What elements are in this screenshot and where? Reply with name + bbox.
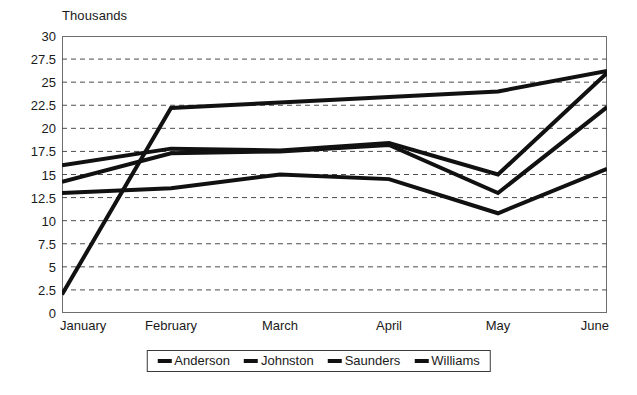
- chart-legend: AndersonJohnstonSaundersWilliams: [146, 350, 490, 372]
- legend-swatch-icon: [244, 359, 258, 363]
- x-axis-tick-label: June: [581, 318, 609, 333]
- legend-label: Anderson: [174, 354, 230, 367]
- y-axis-tick-label: 22.5: [31, 98, 56, 113]
- y-axis-unit-label: Thousands: [62, 8, 127, 23]
- y-axis-tick-label: 0: [49, 306, 56, 321]
- plot-svg: [62, 36, 607, 313]
- y-axis-tick-labels: 3027.52522.52017.51512.5107.552.50: [0, 36, 56, 313]
- x-axis-tick-label: January: [60, 318, 106, 333]
- y-axis-tick-label: 27.5: [31, 52, 56, 67]
- y-axis-tick-label: 17.5: [31, 144, 56, 159]
- x-axis-tick-label: April: [376, 318, 402, 333]
- y-axis-tick-label: 7.5: [38, 236, 56, 251]
- legend-swatch-icon: [328, 359, 342, 363]
- series-line: [62, 169, 607, 213]
- line-chart: Thousands 3027.52522.52017.51512.5107.55…: [0, 0, 637, 395]
- y-axis-tick-label: 15: [42, 167, 56, 182]
- x-axis-tick-label: February: [145, 318, 197, 333]
- legend-item[interactable]: Saunders: [328, 354, 401, 367]
- y-axis-tick-label: 5: [49, 259, 56, 274]
- legend-item[interactable]: Williams: [414, 354, 479, 367]
- y-axis-tick-label: 30: [42, 29, 56, 44]
- legend-label: Williams: [431, 354, 479, 367]
- legend-swatch-icon: [157, 359, 171, 363]
- x-axis-tick-labels: JanuaryFebruaryMarchAprilMayJune: [62, 318, 607, 338]
- x-axis-tick-label: May: [486, 318, 511, 333]
- legend-label: Johnston: [261, 354, 314, 367]
- y-axis-tick-label: 12.5: [31, 190, 56, 205]
- y-axis-tick-label: 10: [42, 213, 56, 228]
- y-axis-tick-label: 25: [42, 75, 56, 90]
- legend-item[interactable]: Anderson: [157, 354, 230, 367]
- legend-swatch-icon: [414, 359, 428, 363]
- y-axis-tick-label: 20: [42, 121, 56, 136]
- series-line: [62, 71, 607, 294]
- plot-area: [62, 36, 607, 313]
- legend-item[interactable]: Johnston: [244, 354, 314, 367]
- legend-label: Saunders: [345, 354, 401, 367]
- x-axis-tick-label: March: [262, 318, 298, 333]
- y-axis-tick-label: 2.5: [38, 282, 56, 297]
